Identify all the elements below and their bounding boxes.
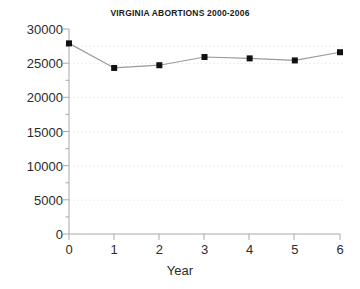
y-axis-tick-label: 10000 bbox=[7, 159, 63, 172]
data-point bbox=[156, 62, 162, 68]
y-axis-tick-label: 0 bbox=[7, 228, 63, 241]
data-point-markers bbox=[66, 40, 343, 71]
x-axis-tick-label: 6 bbox=[336, 243, 343, 256]
x-axis-tick-label: 2 bbox=[156, 243, 163, 256]
data-point bbox=[247, 55, 253, 61]
x-axis-tick-label: 1 bbox=[111, 243, 118, 256]
x-axis-tick-label: 3 bbox=[201, 243, 208, 256]
x-axis bbox=[69, 234, 340, 240]
gridlines-minor bbox=[69, 46, 345, 200]
x-axis-tick-label: 4 bbox=[246, 243, 253, 256]
y-axis-tick-label: 30000 bbox=[7, 23, 63, 36]
x-axis-tick-label: 0 bbox=[65, 243, 72, 256]
chart-container: VIRGINIA ABORTIONS 2000-2006 bbox=[0, 0, 360, 289]
y-axis-tick-label: 5000 bbox=[7, 193, 63, 206]
y-axis-tick-labels: 050001000015000200002500030000 bbox=[5, 0, 63, 289]
y-axis-tick-label: 20000 bbox=[7, 91, 63, 104]
data-point bbox=[66, 40, 72, 46]
x-axis-title: Year bbox=[0, 263, 360, 278]
data-point bbox=[202, 54, 208, 60]
y-axis-tick-label: 25000 bbox=[7, 57, 63, 70]
data-point bbox=[337, 49, 343, 55]
x-axis-tick-label: 5 bbox=[291, 243, 298, 256]
data-point bbox=[111, 65, 117, 71]
data-point bbox=[292, 57, 298, 63]
y-axis-tick-label: 15000 bbox=[7, 125, 63, 138]
y-axis bbox=[63, 29, 69, 234]
